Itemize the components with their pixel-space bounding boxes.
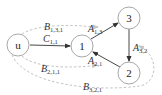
node-3: 3	[118, 7, 140, 29]
label-b131: B1,3,1	[44, 21, 63, 33]
label-a21: A2,1	[87, 55, 102, 67]
svg-text:2: 2	[126, 67, 132, 79]
svg-text:u: u	[15, 39, 21, 51]
node-2: 2	[118, 62, 140, 84]
node-1: 1	[71, 35, 93, 57]
svg-text:1: 1	[79, 40, 85, 52]
edge-c11	[30, 45, 70, 46]
label-a32: A3,2	[132, 42, 147, 54]
svg-text:3: 3	[126, 12, 132, 24]
edge-b211	[22, 56, 97, 67]
label-b321: B3,2,1	[83, 81, 102, 93]
label-c11: C1,1	[43, 33, 58, 45]
label-b211: B2,1,1	[41, 63, 60, 75]
label-a13: A1,3	[87, 23, 102, 35]
signal-flow-diagram: u 1 3 2 C1,1 A1,3 A3,2 A2,1 B1,3,1 B2,1,…	[0, 0, 162, 95]
node-u: u	[7, 34, 29, 56]
